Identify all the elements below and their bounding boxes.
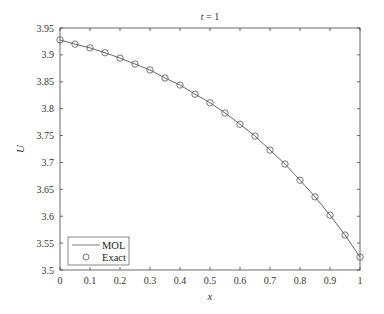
y-tick-label: 3.65: [37, 184, 55, 195]
x-tick-label: 0.3: [144, 275, 157, 286]
legend: MOL Exact: [68, 237, 129, 265]
x-tick-label: 0.8: [294, 275, 307, 286]
plot-area: [60, 28, 360, 270]
y-tick-label: 3.5: [42, 265, 55, 276]
x-tick-label: 0.4: [174, 275, 187, 286]
x-axis-label: x: [207, 290, 213, 302]
x-tick-label: 0.5: [204, 275, 217, 286]
y-tick-label: 3.9: [42, 49, 55, 60]
y-tick-label: 3.75: [37, 130, 55, 141]
x-tick-label: 0.6: [234, 275, 247, 286]
x-tick-label: 0.9: [324, 275, 337, 286]
x-tick-label: 0.2: [114, 275, 127, 286]
x-tick-label: 1: [358, 275, 363, 286]
legend-exact-label: Exact: [102, 252, 126, 263]
chart: t = 1 00.10.20.30.40.50.60.70.80.91 3.53…: [0, 0, 384, 314]
y-tick-label: 3.55: [37, 238, 55, 249]
chart-title: t = 1: [201, 11, 219, 22]
y-tick-label: 3.8: [42, 103, 55, 114]
x-tick-label: 0: [58, 275, 63, 286]
y-axis-label: U: [14, 144, 26, 153]
x-tick-label: 0.1: [84, 275, 97, 286]
legend-mol-label: MOL: [102, 240, 125, 251]
x-tick-label: 0.7: [264, 275, 277, 286]
chart-title-rest: = 1: [204, 11, 220, 22]
y-tick-label: 3.6: [42, 211, 55, 222]
y-tick-label: 3.85: [37, 76, 55, 87]
y-tick-label: 3.95: [37, 23, 55, 34]
y-tick-label: 3.7: [42, 157, 55, 168]
